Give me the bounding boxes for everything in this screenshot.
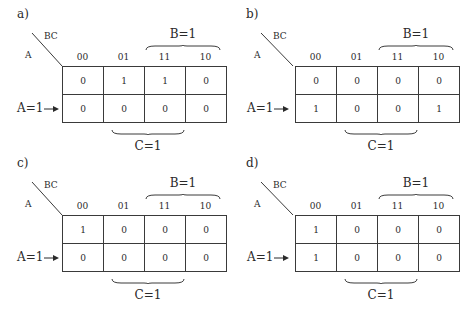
cell: 1 [145, 67, 186, 95]
cell: 0 [419, 244, 460, 272]
cell: 0 [186, 67, 227, 95]
b-brace [145, 45, 221, 51]
column-header-11: 11 [144, 201, 185, 211]
kmap-panel-c: c) BC A 00 01 11 10 B=1 1 0 0 0 0 0 0 0 … [0, 149, 236, 299]
cell: 0 [104, 244, 145, 272]
row-variable-label: A [25, 199, 32, 209]
table-row-a1: 0 0 0 0 [63, 95, 227, 123]
panel-label: b) [246, 7, 258, 21]
table-row-a0: 0 0 0 0 [296, 67, 460, 95]
row-variable-label: A [25, 50, 32, 60]
table-row-a1: 1 0 0 1 [296, 95, 460, 123]
b-equals-1-label: B=1 [160, 27, 206, 41]
column-header-00: 00 [62, 52, 103, 62]
cell: 1 [104, 67, 145, 95]
column-header-01: 01 [336, 201, 377, 211]
cell: 0 [337, 216, 378, 244]
kmap-panel-a: a) BC A 00 01 11 10 B=1 0 1 1 0 0 0 0 0 … [0, 0, 236, 150]
c-brace [111, 129, 185, 135]
cell: 1 [296, 95, 337, 123]
kmap-panel-d: d) BC A 00 01 11 10 B=1 1 0 0 0 1 0 0 0 … [233, 149, 469, 299]
panel-label: c) [17, 156, 28, 170]
table-row-a0: 1 0 0 0 [63, 216, 227, 244]
b-brace [378, 194, 454, 200]
table-row-a0: 0 1 1 0 [63, 67, 227, 95]
cell: 0 [63, 244, 104, 272]
kmap-grid: 1 0 0 0 1 0 0 0 [295, 215, 460, 272]
column-header-10: 10 [185, 52, 226, 62]
cell: 1 [63, 216, 104, 244]
row-variable-label: A [254, 50, 261, 60]
panel-label: a) [17, 7, 29, 21]
row-variable-label: A [254, 199, 261, 209]
b-equals-1-label: B=1 [393, 27, 439, 41]
column-header-10: 10 [418, 201, 459, 211]
c-brace [344, 278, 418, 284]
cell: 0 [186, 95, 227, 123]
cell: 0 [337, 67, 378, 95]
cell: 0 [186, 216, 227, 244]
a-equals-1-label: A=1 [247, 101, 273, 115]
column-variable-label: BC [44, 180, 58, 190]
cell: 0 [337, 95, 378, 123]
column-header-01: 01 [103, 52, 144, 62]
column-header-10: 10 [418, 52, 459, 62]
column-header-11: 11 [144, 52, 185, 62]
column-variable-label: BC [44, 31, 58, 41]
c-brace [111, 278, 185, 284]
kmap-grid: 0 1 1 0 0 0 0 0 [62, 66, 227, 123]
a-equals-1-label: A=1 [17, 101, 43, 115]
cell: 0 [63, 67, 104, 95]
cell: 0 [378, 244, 419, 272]
column-header-00: 00 [295, 201, 336, 211]
cell: 0 [145, 95, 186, 123]
cell: 0 [337, 244, 378, 272]
cell: 0 [104, 95, 145, 123]
cell: 0 [145, 244, 186, 272]
kmap-grid: 0 0 0 0 1 0 0 1 [295, 66, 460, 123]
cell: 0 [378, 216, 419, 244]
table-row-a1: 0 0 0 0 [63, 244, 227, 272]
b-equals-1-label: B=1 [393, 176, 439, 190]
arrow-right-icon [44, 254, 60, 262]
column-variable-label: BC [273, 180, 287, 190]
cell: 1 [296, 244, 337, 272]
c-brace [344, 129, 418, 135]
panel-label: d) [246, 156, 258, 170]
cell: 0 [378, 67, 419, 95]
b-brace [145, 194, 221, 200]
column-header-00: 00 [295, 52, 336, 62]
kmap-grid: 1 0 0 0 0 0 0 0 [62, 215, 227, 272]
column-header-11: 11 [377, 201, 418, 211]
column-header-01: 01 [336, 52, 377, 62]
column-variable-label: BC [273, 31, 287, 41]
arrow-right-icon [274, 105, 290, 113]
cell: 0 [104, 216, 145, 244]
cell: 1 [296, 216, 337, 244]
cell: 0 [419, 216, 460, 244]
b-brace [378, 45, 454, 51]
table-row-a1: 1 0 0 0 [296, 244, 460, 272]
column-header-11: 11 [377, 52, 418, 62]
cell: 0 [296, 67, 337, 95]
column-header-01: 01 [103, 201, 144, 211]
a-equals-1-label: A=1 [247, 250, 273, 264]
table-row-a0: 1 0 0 0 [296, 216, 460, 244]
b-equals-1-label: B=1 [160, 176, 206, 190]
cell: 0 [63, 95, 104, 123]
c-equals-1-label: C=1 [358, 288, 404, 302]
cell: 0 [186, 244, 227, 272]
kmap-panel-b: b) BC A 00 01 11 10 B=1 0 0 0 0 1 0 0 1 … [233, 0, 469, 150]
c-equals-1-label: C=1 [125, 288, 171, 302]
cell: 0 [378, 95, 419, 123]
a-equals-1-label: A=1 [17, 250, 43, 264]
column-header-10: 10 [185, 201, 226, 211]
cell: 0 [419, 67, 460, 95]
cell: 1 [419, 95, 460, 123]
arrow-right-icon [44, 105, 60, 113]
arrow-right-icon [274, 254, 290, 262]
column-header-00: 00 [62, 201, 103, 211]
cell: 0 [145, 216, 186, 244]
